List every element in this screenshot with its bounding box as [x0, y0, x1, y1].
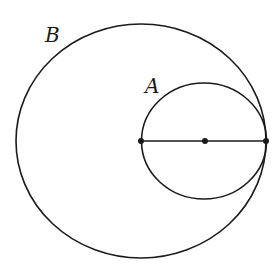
label-a: A — [143, 74, 159, 98]
label-b: B — [44, 23, 60, 47]
circles-diagram: B A — [0, 0, 279, 273]
left-endpoint-dot — [138, 138, 144, 144]
right-endpoint-dot — [263, 138, 269, 144]
center-dot — [202, 138, 208, 144]
